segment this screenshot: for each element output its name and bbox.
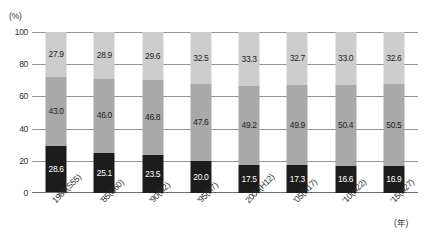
x-tick-label-wrap: 1980(S55) [32,195,80,241]
stacked-bar[interactable]: 32.650.516.9 [383,32,404,193]
y-tick-label: 0 [2,188,28,198]
bar-slot: 33.050.416.6 [322,32,370,193]
bars-layer: 27.943.028.628.946.025.129.646.823.532.5… [32,32,418,193]
x-axis-tick-labels: 1980(S55)'85(S60)'90(H2)'95(H7)2000(H12)… [32,195,418,241]
bar-segment-value: 23.5 [145,170,160,179]
stacked-bar[interactable]: 32.547.620.0 [190,32,211,193]
stacked-bar[interactable]: 29.646.823.5 [142,32,163,193]
y-tick-label: 100 [2,27,28,37]
bar-segment-value: 50.5 [386,121,401,130]
bar-segment-top-segment[interactable]: 32.5 [190,32,211,84]
bar-segment-value: 27.9 [48,50,63,59]
bar-segment-value: 32.6 [386,54,401,63]
bar-segment-value: 46.0 [97,111,112,120]
stacked-bar-chart: (%) 27.943.028.628.946.025.129.646.823.5… [0,0,431,244]
bar-segment-top-segment[interactable]: 32.7 [287,32,308,85]
bar-slot: 32.650.516.9 [370,32,418,193]
bar-segment-top-segment[interactable]: 32.6 [383,32,404,84]
x-tick-label-wrap: '95(H7) [177,195,225,241]
bar-segment-middle-segment[interactable]: 50.5 [383,84,404,165]
bar-slot: 32.749.917.3 [273,32,321,193]
y-tick-label: 40 [2,124,28,134]
stacked-bar[interactable]: 27.943.028.6 [46,32,67,193]
bar-segment-value: 29.6 [145,52,160,61]
x-tick-label-wrap: '85(S60) [80,195,128,241]
bar-segment-value: 46.8 [145,113,160,122]
y-tick-label: 60 [2,91,28,101]
x-axis-unit-label: (年) [394,216,408,228]
bar-segment-top-segment[interactable]: 29.6 [142,32,163,80]
bar-slot: 32.547.620.0 [177,32,225,193]
y-axis-unit-label: (%) [9,11,22,21]
bar-segment-value: 20.0 [193,173,208,182]
bar-segment-middle-segment[interactable]: 47.6 [190,84,211,161]
bar-segment-value: 28.6 [48,165,63,174]
bar-slot: 29.646.823.5 [129,32,177,193]
stacked-bar[interactable]: 28.946.025.1 [94,32,115,193]
bar-segment-value: 32.7 [290,54,305,63]
bar-segment-value: 17.3 [290,175,305,184]
bar-segment-value: 33.3 [241,55,256,64]
bar-segment-value: 33.0 [338,54,353,63]
bar-segment-middle-segment[interactable]: 46.8 [142,80,163,155]
bar-segment-top-segment[interactable]: 33.3 [239,32,260,86]
bar-slot: 27.943.028.6 [32,32,80,193]
bar-segment-value: 50.4 [338,121,353,130]
bar-segment-top-segment[interactable]: 33.0 [335,32,356,85]
bar-slot: 33.349.217.5 [225,32,273,193]
bar-segment-value: 49.2 [241,121,256,130]
stacked-bar[interactable]: 33.050.416.6 [335,32,356,193]
x-tick-label-wrap: '10(H22) [322,195,370,241]
bar-segment-value: 28.9 [97,51,112,60]
y-tick-label: 80 [2,59,28,69]
x-tick-label-wrap: 2000(H12) [225,195,273,241]
bar-segment-top-segment[interactable]: 27.9 [46,32,67,77]
x-tick-label-wrap: '90(H2) [129,195,177,241]
bar-segment-middle-segment[interactable]: 49.9 [287,85,308,165]
bar-segment-middle-segment[interactable]: 49.2 [239,86,260,165]
plot-area: 27.943.028.628.946.025.129.646.823.532.5… [32,32,418,193]
bar-segment-middle-segment[interactable]: 43.0 [46,77,67,146]
bar-segment-value: 32.5 [193,54,208,63]
bar-segment-value: 47.6 [193,118,208,127]
bar-segment-value: 49.9 [290,121,305,130]
bar-segment-top-segment[interactable]: 28.9 [94,32,115,79]
bar-slot: 28.946.025.1 [80,32,128,193]
bar-segment-middle-segment[interactable]: 46.0 [94,79,115,153]
bar-segment-value: 16.9 [386,175,401,184]
stacked-bar[interactable]: 32.749.917.3 [287,32,308,193]
bar-segment-value: 25.1 [97,169,112,178]
bar-segment-value: 43.0 [48,107,63,116]
bar-segment-value: 16.6 [338,175,353,184]
stacked-bar[interactable]: 33.349.217.5 [239,32,260,193]
bar-segment-middle-segment[interactable]: 50.4 [335,85,356,166]
bar-segment-value: 17.5 [241,175,256,184]
y-tick-label: 20 [2,156,28,166]
x-tick-label-wrap: '05(H17) [273,195,321,241]
